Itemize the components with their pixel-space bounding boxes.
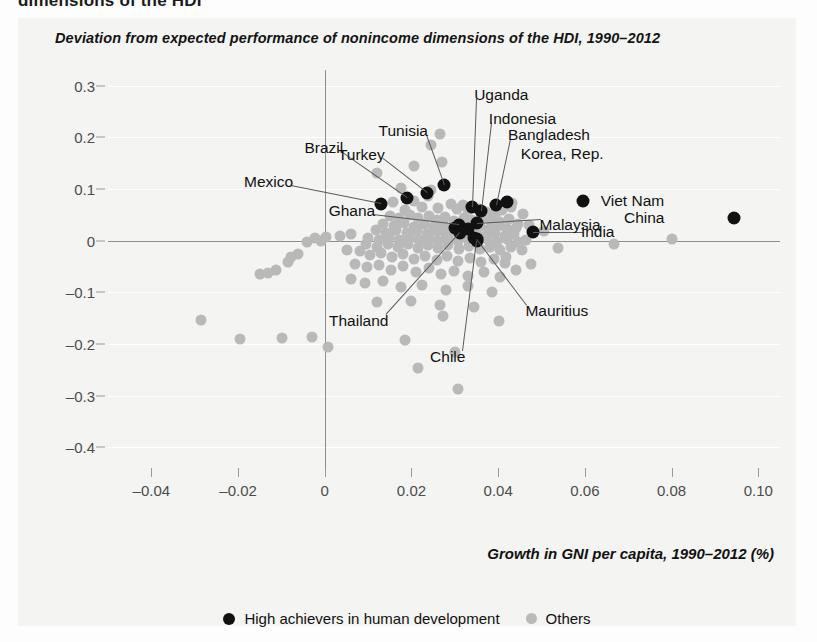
y-tick-mark: [96, 395, 105, 396]
data-point-other: [386, 252, 397, 263]
gridline: [108, 396, 780, 397]
data-point-high-achiever: [500, 196, 513, 209]
chart-legend: High achievers in human development Othe…: [18, 610, 796, 627]
data-point-other: [399, 334, 410, 345]
data-point-other: [408, 161, 419, 172]
data-point-other: [378, 275, 389, 286]
data-point-other: [525, 258, 536, 269]
legend-item-high-achievers: High achievers in human development: [223, 610, 499, 627]
legend-item-others: Others: [526, 610, 591, 627]
data-point-other: [469, 302, 480, 313]
y-tick-label: –0.4: [66, 439, 95, 456]
legend-marker-black-dot-icon: [223, 613, 235, 625]
data-point-other: [254, 268, 265, 279]
x-tick-label: 0.08: [657, 482, 686, 499]
x-tick-label: 0: [321, 482, 329, 499]
point-label: Viet Nam: [601, 192, 664, 210]
data-point-other: [666, 233, 677, 244]
x-axis-title: Growth in GNI per capita, 1990–2012 (%): [487, 545, 774, 562]
gridline: [108, 447, 780, 448]
data-point-other: [345, 274, 356, 285]
y-tick-mark: [96, 292, 105, 293]
data-point-other: [494, 315, 505, 326]
data-point-high-achiever: [728, 212, 741, 225]
figure-title: Deviation from expected performance of n…: [55, 30, 660, 46]
legend-label-others: Others: [546, 610, 591, 627]
y-tick-mark: [96, 85, 105, 86]
y-tick-mark: [96, 137, 105, 138]
data-point-other: [345, 229, 356, 240]
y-tick-label: –0.1: [66, 284, 95, 301]
x-tick-mark: [238, 468, 239, 477]
data-point-other: [453, 384, 464, 395]
y-tick-label: 0.2: [74, 129, 95, 146]
x-tick-mark: [325, 468, 326, 477]
point-label: Tunisia: [379, 122, 428, 140]
x-tick-label: –0.04: [133, 482, 171, 499]
data-point-other: [350, 259, 361, 270]
data-point-other: [277, 333, 288, 344]
x-tick-mark: [585, 468, 586, 477]
data-point-other: [359, 277, 370, 288]
data-point-other: [434, 300, 445, 311]
data-point-other: [437, 311, 448, 322]
data-point-other: [479, 267, 490, 278]
x-tick-mark: [151, 468, 152, 477]
point-label: Mexico: [244, 173, 293, 191]
y-tick-label: 0.3: [74, 77, 95, 94]
x-tick-mark: [498, 468, 499, 477]
legend-label-high-achievers: High achievers in human development: [244, 610, 499, 627]
data-point-other: [373, 260, 384, 271]
point-label: Bangladesh: [508, 126, 590, 144]
y-tick-label: –0.3: [66, 387, 95, 404]
point-label: Korea, Rep.: [521, 145, 604, 163]
x-tick-mark: [411, 468, 412, 477]
data-point-other: [235, 333, 246, 344]
x-tick-label: 0.02: [397, 482, 426, 499]
y-tick-mark: [96, 188, 105, 189]
y-tick-mark: [96, 343, 105, 344]
y-tick-label: 0.1: [74, 180, 95, 197]
data-point-other: [408, 253, 419, 264]
point-label: India: [581, 223, 615, 241]
data-point-other: [553, 243, 564, 254]
y-tick-mark: [96, 447, 105, 448]
data-point-other: [342, 244, 353, 255]
plot-area: 0.30.20.10–0.1–0.2–0.3–0.4–0.04–0.0200.0…: [108, 70, 780, 468]
data-point-other: [405, 295, 416, 306]
data-point-other: [442, 251, 453, 262]
point-label: Mauritius: [525, 302, 588, 320]
data-point-other: [500, 252, 511, 263]
data-point-other: [388, 197, 399, 208]
data-point-other: [486, 287, 497, 298]
data-point-other: [385, 264, 396, 275]
data-point-high-achiever: [454, 227, 467, 240]
data-point-other: [306, 332, 317, 343]
point-label: Turkey: [338, 146, 385, 164]
figure-panel: Deviation from expected performance of n…: [18, 18, 796, 626]
data-point-high-achiever: [576, 195, 589, 208]
point-label: Thailand: [329, 312, 388, 330]
zero-line-vertical: [325, 70, 326, 468]
data-point-other: [417, 280, 428, 291]
x-tick-label: 0.06: [570, 482, 599, 499]
point-label: Ghana: [329, 202, 376, 220]
point-label: Indonesia: [489, 110, 556, 128]
data-point-other: [365, 250, 376, 261]
x-tick-label: 0.10: [744, 482, 773, 499]
gridline: [108, 344, 780, 345]
label-leader-line: [472, 99, 477, 207]
data-point-other: [371, 296, 382, 307]
data-point-other: [334, 230, 345, 241]
data-point-high-achiever: [438, 179, 451, 192]
data-point-other: [420, 250, 431, 261]
point-label: China: [624, 209, 665, 227]
data-point-other: [441, 284, 452, 295]
data-point-other: [397, 261, 408, 272]
data-point-other: [362, 262, 373, 273]
legend-marker-gray-dot-icon: [526, 613, 537, 624]
data-point-other: [412, 363, 423, 374]
data-point-other: [196, 315, 207, 326]
data-point-other: [422, 239, 433, 250]
data-point-other: [434, 129, 445, 140]
